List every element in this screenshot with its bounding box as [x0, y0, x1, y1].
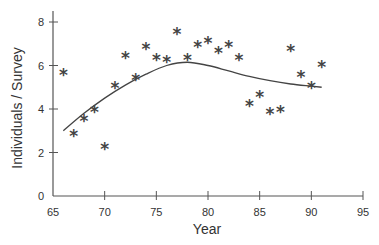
y-tick-label: 6 [38, 60, 44, 72]
asterisk-marker: * [255, 87, 264, 107]
asterisk-marker: * [204, 33, 213, 53]
asterisk-marker: * [245, 96, 254, 116]
asterisk-marker: * [266, 104, 275, 124]
x-tick-label: 65 [47, 206, 59, 218]
y-tick-label: 0 [38, 190, 44, 202]
x-tick-label: 95 [357, 206, 369, 218]
asterisk-marker: * [235, 50, 244, 70]
asterisk-marker: * [142, 39, 151, 59]
asterisk-marker: * [100, 139, 109, 159]
x-tick-label: 75 [150, 206, 162, 218]
scatter-chart: 6570758085909502468 ********************… [0, 0, 379, 245]
asterisk-marker: * [214, 43, 223, 63]
asterisk-marker: * [121, 48, 130, 68]
x-tick-label: 70 [99, 206, 111, 218]
y-tick-label: 2 [38, 147, 44, 159]
asterisk-marker: * [276, 102, 285, 122]
x-axis-title: Year [193, 221, 222, 237]
data-points: ************************** [59, 24, 326, 159]
asterisk-marker: * [193, 37, 202, 57]
asterisk-marker: * [69, 126, 78, 146]
asterisk-marker: * [90, 102, 99, 122]
asterisk-marker: * [286, 41, 295, 61]
asterisk-marker: * [224, 37, 233, 57]
asterisk-marker: * [297, 67, 306, 87]
y-axis-title: Individuals / Survey [9, 47, 25, 168]
asterisk-marker: * [162, 52, 171, 72]
asterisk-marker: * [59, 65, 68, 85]
y-tick-label: 8 [38, 16, 44, 28]
asterisk-marker: * [111, 78, 120, 98]
x-tick-label: 85 [254, 206, 266, 218]
asterisk-marker: * [173, 24, 182, 44]
asterisk-marker: * [80, 111, 89, 131]
x-tick-label: 80 [202, 206, 214, 218]
asterisk-marker: * [307, 78, 316, 98]
asterisk-marker: * [183, 50, 192, 70]
x-tick-label: 90 [305, 206, 317, 218]
asterisk-marker: * [131, 70, 140, 90]
y-tick-label: 4 [38, 103, 44, 115]
asterisk-marker: * [317, 57, 326, 77]
asterisk-marker: * [152, 50, 161, 70]
